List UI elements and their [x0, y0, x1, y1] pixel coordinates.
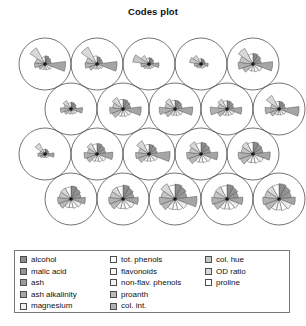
som-unit-center-dot	[147, 62, 151, 66]
legend-item-label: magnesium	[31, 300, 72, 312]
legend-swatch-icon	[20, 303, 27, 310]
legend-item: ash alkalinity	[20, 289, 77, 301]
legend-swatch-icon	[205, 268, 212, 275]
som-unit[interactable]	[227, 128, 279, 180]
som-unit-center-dot	[95, 62, 99, 66]
legend-item: alcohol	[20, 254, 77, 266]
legend-item-label: proanth	[121, 289, 148, 301]
som-unit[interactable]	[45, 83, 97, 135]
legend-item-label: tot. phenols	[121, 254, 162, 266]
som-unit[interactable]	[123, 38, 175, 90]
som-unit[interactable]	[175, 128, 227, 180]
legend-item: col. int.	[110, 300, 181, 312]
legend-item: col. hue	[205, 254, 246, 266]
legend-column-3: col. hueOD ratioproline	[205, 254, 246, 289]
codes-plot-page: Codes plot alcoholmalic acidashash alkal…	[0, 0, 306, 326]
legend-swatch-icon	[20, 279, 27, 286]
legend-item-label: malic acid	[31, 266, 67, 278]
som-unit-center-dot	[277, 107, 281, 111]
legend-item: proanth	[110, 289, 181, 301]
som-unit[interactable]	[97, 83, 149, 135]
legend-swatch-icon	[205, 256, 212, 263]
legend-item-label: flavonoids	[121, 266, 157, 278]
som-unit-center-dot	[121, 197, 125, 201]
som-unit-center-dot	[69, 107, 73, 111]
som-unit-center-dot	[225, 107, 229, 111]
som-codes-svg	[0, 28, 306, 243]
page-title: Codes plot	[0, 6, 306, 17]
som-unit-center-dot	[121, 107, 125, 111]
som-unit[interactable]	[19, 128, 71, 180]
legend-item-label: ash alkalinity	[31, 289, 77, 301]
legend-swatch-icon	[110, 268, 117, 275]
som-codes-grid	[0, 28, 306, 243]
som-unit[interactable]	[45, 173, 97, 225]
som-unit[interactable]	[19, 38, 71, 90]
som-unit-center-dot	[199, 152, 203, 156]
legend-item: non-flav. phenols	[110, 277, 181, 289]
som-unit-center-dot	[251, 62, 255, 66]
legend-swatch-icon	[110, 279, 117, 286]
som-unit-center-dot	[43, 62, 47, 66]
legend-swatch-icon	[110, 291, 117, 298]
legend-item: ash	[20, 277, 77, 289]
som-unit-center-dot	[95, 152, 99, 156]
legend-column-1: alcoholmalic acidashash alkalinitymagnes…	[20, 254, 77, 312]
som-unit[interactable]	[175, 38, 227, 90]
legend-swatch-icon	[20, 291, 27, 298]
som-unit[interactable]	[201, 83, 253, 135]
som-unit[interactable]	[71, 128, 123, 180]
som-unit[interactable]	[149, 173, 201, 225]
som-unit[interactable]	[201, 173, 253, 225]
legend-box: alcoholmalic acidashash alkalinitymagnes…	[14, 250, 290, 313]
som-unit-center-dot	[43, 152, 47, 156]
som-unit[interactable]	[227, 38, 279, 90]
legend-item: flavonoids	[110, 266, 181, 278]
legend-swatch-icon	[110, 256, 117, 263]
som-unit-center-dot	[199, 62, 203, 66]
som-unit-center-dot	[251, 152, 255, 156]
som-unit[interactable]	[253, 83, 305, 135]
legend-item-label: ash	[31, 277, 44, 289]
legend-item: malic acid	[20, 266, 77, 278]
som-unit[interactable]	[253, 173, 305, 225]
legend-item: magnesium	[20, 300, 77, 312]
legend-item: tot. phenols	[110, 254, 181, 266]
som-unit[interactable]	[97, 173, 149, 225]
legend-item-label: alcohol	[31, 254, 56, 266]
som-unit[interactable]	[123, 128, 175, 180]
som-unit-center-dot	[277, 197, 281, 201]
som-unit-center-dot	[69, 197, 73, 201]
som-unit-center-dot	[173, 107, 177, 111]
som-unit[interactable]	[149, 83, 201, 135]
legend-column-2: tot. phenolsflavonoidsnon-flav. phenolsp…	[110, 254, 181, 312]
legend-swatch-icon	[20, 268, 27, 275]
legend-swatch-icon	[110, 303, 117, 310]
legend-swatch-icon	[20, 256, 27, 263]
legend-swatch-icon	[205, 279, 212, 286]
legend-item-label: OD ratio	[216, 266, 246, 278]
som-unit-center-dot	[173, 197, 177, 201]
som-unit-center-dot	[225, 197, 229, 201]
legend-item: proline	[205, 277, 246, 289]
som-unit-center-dot	[147, 152, 151, 156]
legend-item-label: col. int.	[121, 300, 146, 312]
legend-item-label: non-flav. phenols	[121, 277, 181, 289]
legend-item-label: col. hue	[216, 254, 244, 266]
legend-item: OD ratio	[205, 266, 246, 278]
som-unit[interactable]	[71, 38, 123, 90]
legend-item-label: proline	[216, 277, 240, 289]
